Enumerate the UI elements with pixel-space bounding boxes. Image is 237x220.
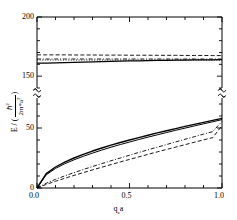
data-curves-layer (37, 55, 222, 188)
y-axis-label-fraction: ℏ2 2m*a2 (5, 95, 25, 117)
curve-lower-band-dashdot-3 (37, 121, 222, 188)
figure-container: 200 150 50 0 0.0 0.5 1.0 E / ( ℏ2 2m*a2 … (0, 0, 237, 220)
y-axis-label-numerator-exponent: 2 (5, 103, 10, 106)
curve-lower-band-solid-2 (37, 120, 222, 188)
x-axis-label: qza (0, 205, 237, 217)
curve-upper-band-solid-4 (37, 60, 222, 63)
axis-break-layer (34, 89, 226, 97)
y-tick-label-200: 200 (0, 13, 34, 21)
x-axis-label-suffix: a (120, 204, 124, 213)
y-axis-label-text: E / ( ℏ2 2m*a2 ) (3, 67, 27, 157)
y-axis-label-numerator: ℏ2 (5, 101, 14, 112)
curve-upper-band-dashed-1 (37, 55, 222, 56)
y-axis-label-lead: E / ( (11, 118, 19, 132)
plot-canvas (0, 0, 237, 220)
y-axis-label-denominator: 2m*a2 (15, 95, 25, 117)
y-axis-label: E / ( ℏ2 2m*a2 ) (2, 60, 28, 150)
curve-lower-band-dashed-4 (37, 126, 222, 188)
y-axis-label-denominator-exponent: 2 (16, 97, 21, 100)
y-axis-label-trail: ) (11, 92, 19, 95)
curve-lower-band-solid-1 (37, 118, 222, 188)
x-tick-label-1: 1.0 (0, 192, 237, 200)
